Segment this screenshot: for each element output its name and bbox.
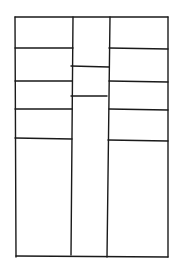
shelf-left	[15, 138, 72, 139]
shelf-center	[71, 66, 109, 67]
shelf-right	[109, 81, 168, 82]
frame-bottom	[16, 256, 168, 257]
divider-1	[107, 17, 110, 257]
shelf-right	[109, 48, 168, 49]
frame-left	[15, 17, 16, 257]
shelf-right	[109, 109, 168, 110]
divider-0	[71, 17, 73, 255]
wardrobe-diagram	[0, 0, 179, 274]
shelf-right	[108, 140, 168, 141]
